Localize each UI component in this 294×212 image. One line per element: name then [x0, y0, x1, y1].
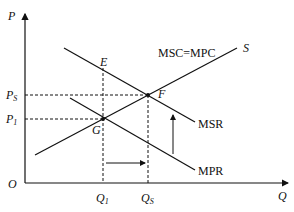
- supply-label: S: [243, 41, 249, 55]
- y-axis-label: P: [7, 9, 16, 23]
- point-g-label: G: [92, 123, 101, 137]
- ps-label: PS: [5, 88, 17, 103]
- qs-label: QS: [141, 191, 154, 206]
- origin-label: O: [8, 177, 17, 191]
- x-axis-label: Q: [278, 189, 287, 203]
- point-e-label: E: [99, 55, 108, 69]
- mpr-label: MPR: [198, 164, 223, 178]
- point-f-label: F: [157, 87, 166, 101]
- point-f: [146, 93, 150, 97]
- point-g: [101, 117, 105, 121]
- q1-label: Q1: [96, 191, 109, 206]
- externality-diagram: P Q O PS P1 Q1 QS S MSC=MPC MSR MPR E F …: [0, 0, 294, 212]
- supply-name-label: MSC=MPC: [158, 46, 215, 60]
- msr-label: MSR: [198, 117, 223, 131]
- p1-label: P1: [5, 112, 17, 127]
- supply-curve: [35, 48, 237, 155]
- mpr-curve: [70, 98, 195, 170]
